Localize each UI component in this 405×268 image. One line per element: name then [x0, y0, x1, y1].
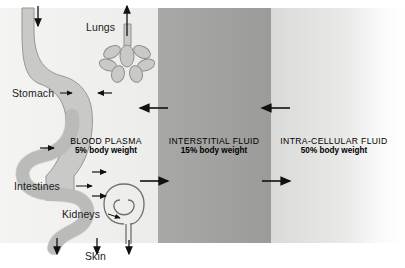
band-interstitial-fluid — [158, 8, 271, 243]
compartment-bands — [0, 8, 405, 243]
organ-label-stomach: Stomach — [12, 87, 54, 99]
compartment-subtitle-blood-plasma: 5% body weight — [56, 146, 156, 155]
compartment-title-intra-cellular-fluid: INTRA-CELLULAR FLUID — [272, 136, 396, 146]
organ-label-skin: Skin — [85, 250, 106, 262]
organ-label-lungs: Lungs — [86, 21, 115, 33]
compartment-subtitle-intra-cellular-fluid: 50% body weight — [272, 146, 396, 155]
compartment-caption-blood-plasma: BLOOD PLASMA 5% body weight — [56, 136, 156, 155]
fluid-compartments-figure: Lungs Stomach Intestines Kidneys Skin BL… — [0, 0, 405, 268]
compartment-title-interstitial-fluid: INTERSTITIAL FLUID — [160, 136, 268, 146]
organ-label-intestines: Intestines — [14, 180, 60, 192]
compartment-caption-interstitial-fluid: INTERSTITIAL FLUID 15% body weight — [160, 136, 268, 155]
compartment-subtitle-interstitial-fluid: 15% body weight — [160, 146, 268, 155]
organ-label-kidneys: Kidneys — [62, 208, 100, 220]
compartment-title-blood-plasma: BLOOD PLASMA — [56, 136, 156, 146]
compartment-caption-intra-cellular-fluid: INTRA-CELLULAR FLUID 50% body weight — [272, 136, 396, 155]
diagram-canvas — [0, 0, 405, 268]
band-intra-cellular-fluid — [271, 8, 405, 243]
